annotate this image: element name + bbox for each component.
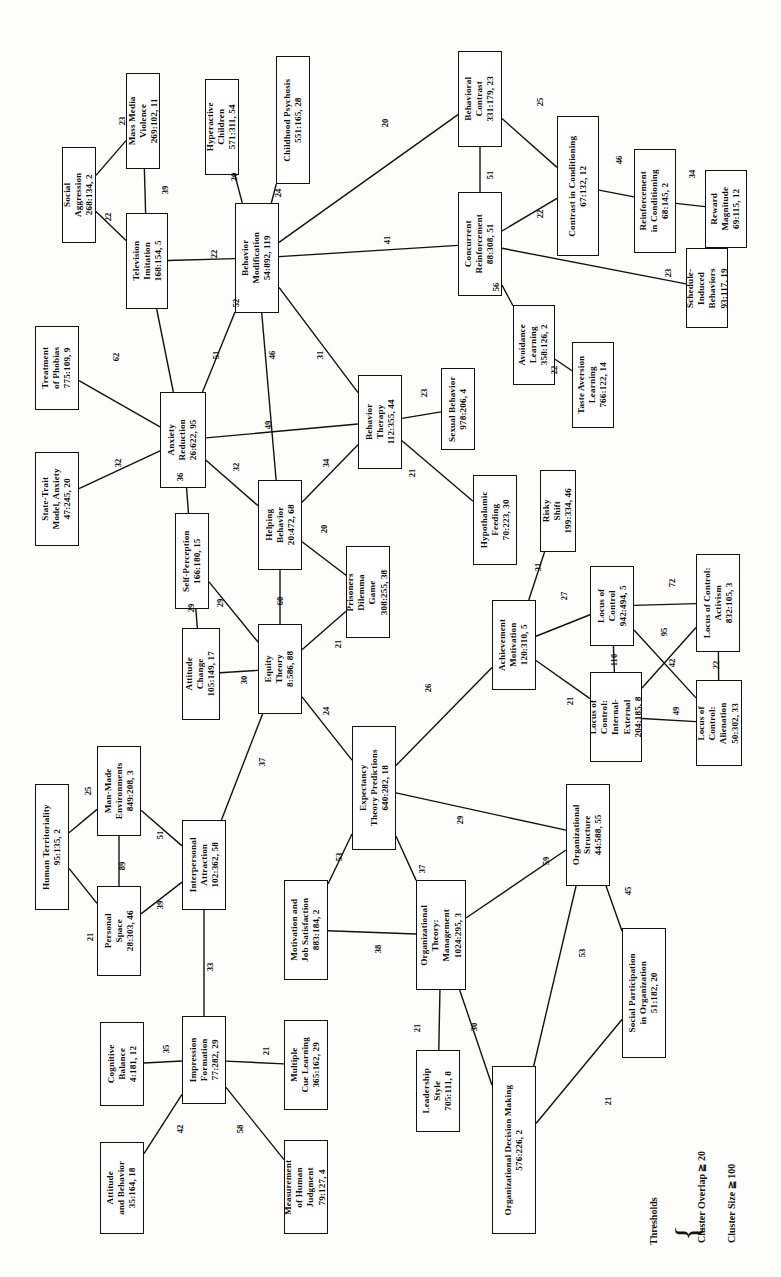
node-stat: 166:180, 15: [192, 530, 203, 592]
node-expectancy_theory: ExpectancyTheory Predictions640:282, 18: [352, 726, 396, 850]
node-stat: 47:245, 20: [63, 468, 74, 529]
node-label: InterpersonalAttraction102:362, 58: [187, 838, 221, 893]
node-stat: 775:109, 9: [63, 347, 74, 389]
node-label: Taste AversionLearning766:122, 14: [576, 356, 610, 414]
edge-impression_formation-attitude_behavior: [144, 1094, 182, 1153]
node-stat: 105:149, 17: [207, 651, 218, 697]
node-label: Schedule-InducedBehaviors93:117, 19: [686, 268, 728, 308]
node-multiple_cue_learning: MultipleCue Learning365:162, 29: [284, 1020, 328, 1110]
node-stat: 8:586, 88: [286, 651, 297, 687]
node-label: Locus ofControl:Internal-External204:185…: [590, 697, 642, 738]
node-label: ConcurrentReinforcement88:308, 51: [463, 214, 497, 273]
edge-concurrent_reinforcement-avoidance_learning: [502, 285, 513, 306]
node-stat: 640:282, 18: [380, 750, 391, 827]
node-stat: 20:472, 68: [286, 505, 297, 546]
edge-expectancy_theory-org_structure: [396, 793, 566, 830]
node-label: OrganizationalTheory:Management1024:295,…: [419, 905, 464, 966]
node-label: Man-MadeEnvironments849:208, 3: [102, 763, 136, 820]
node-attitude_change: AttitudeChange105:149, 17: [182, 628, 220, 720]
node-label: Treatmentof Phobias775:109, 9: [40, 347, 74, 389]
node-label: TelevisionImitation168:154, 5: [130, 241, 164, 282]
node-label: State-TraitModel, Anxiety47:245, 20: [40, 468, 74, 529]
node-stat: 978:206, 4: [458, 376, 469, 442]
node-label: Motivation andJob Satisfaction883:184, 2: [289, 898, 323, 962]
node-label: SocialAggression268:134, 2: [62, 173, 96, 217]
edge-locus_int_ext-locus_activism: [642, 628, 696, 688]
node-label: Measurementof HumanJudgment79:127, 4: [284, 1159, 328, 1214]
node-label: ExpectancyTheory Predictions640:282, 18: [357, 750, 391, 827]
node-org_structure: OrganizationalStructure44:588, 55: [566, 784, 610, 886]
node-label: LeadershipStyle705:111, 8: [421, 1068, 455, 1113]
node-hypothalamic_feeding: HypothalamicFeeding70:223, 30: [473, 475, 517, 565]
node-state_trait_anxiety: State-TraitModel, Anxiety47:245, 20: [35, 452, 79, 546]
diagram-page: SocialAggression268:134, 2Mass MediaViol…: [0, 0, 781, 1277]
node-avoidance_learning: AvoidanceLearning358:126, 2: [513, 305, 555, 385]
node-label: PrisonersDilemmaGame308:255, 38: [346, 569, 390, 615]
node-stat: 51:182, 20: [650, 953, 661, 1032]
edge-social_aggression-television_imitation: [96, 212, 126, 241]
node-stat: 95:135, 2: [52, 804, 63, 889]
edge-reinforcement_cond-reward_magnitude: [676, 203, 705, 206]
node-stat: 68:145, 2: [661, 169, 672, 232]
node-label: BehavioralContrast331:179, 23: [463, 76, 497, 122]
edge-equity_theory-expectancy_theory: [302, 697, 352, 760]
node-label: EquityTheory8:586, 88: [263, 651, 297, 687]
node-label: HyperactiveChildren571:311, 54: [205, 102, 239, 151]
node-label: Self-Perception166:180, 15: [181, 530, 203, 592]
node-stat: 832:105, 3: [724, 568, 735, 639]
node-concurrent_reinforcement: ConcurrentReinforcement88:308, 51: [458, 192, 502, 296]
edge-man_made_env-interpersonal_attraction: [141, 810, 182, 846]
edge-anxiety_reduction-self_perception: [187, 488, 189, 513]
edge-org_theory_mgmt-leadership_style: [439, 990, 440, 1050]
node-label: AvoidanceLearning358:126, 2: [517, 324, 551, 366]
node-treatment_phobias: Treatmentof Phobias775:109, 9: [35, 326, 79, 410]
node-attitude_behavior: Attitudeand Behavior35:164, 18: [100, 1142, 144, 1234]
node-measurement_judgment: Measurementof HumanJudgment79:127, 4: [284, 1140, 328, 1234]
node-personal_space: PersonalSpace28:303, 46: [97, 886, 141, 976]
node-stat: 331:179, 23: [486, 76, 497, 122]
node-locus_alienation: Locus ofControl:Alienation50:302, 33: [696, 680, 742, 766]
node-man_made_env: Man-MadeEnvironments849:208, 3: [97, 746, 141, 836]
edge-personal_space-interpersonal_attraction: [141, 882, 182, 914]
node-impression_formation: ImpressionFormation77:282, 29: [182, 1016, 226, 1104]
node-label: HypothalamicFeeding70:223, 30: [478, 492, 512, 549]
node-schedule_induced: Schedule-InducedBehaviors93:117, 19: [686, 248, 728, 328]
node-hyperactive_children: HyperactiveChildren571:311, 54: [205, 79, 239, 175]
node-contrast_conditioning: Contrast in Conditioning67:132, 12: [557, 116, 599, 256]
edge-achievement_motivation-locus_control: [536, 615, 590, 636]
node-stat: 35:164, 18: [128, 1161, 139, 1215]
node-stat: 705:111, 8: [444, 1068, 455, 1113]
edge-television_imitation-behavior_modification: [168, 259, 235, 261]
node-stat: 120:310, 5: [520, 619, 531, 671]
edge-expectancy_theory-org_theory_mgmt: [396, 836, 416, 880]
node-stat: 44:588, 55: [594, 805, 605, 866]
node-stat: 849:208, 3: [125, 763, 136, 820]
node-org_theory_mgmt: OrganizationalTheory:Management1024:295,…: [416, 880, 466, 990]
node-locus_activism: Locus of Control:Activism832:105, 3: [696, 554, 740, 652]
edge-helping_behavior-prisoners_dilemma: [302, 542, 346, 576]
node-label: Human Territoriality95:135, 2: [41, 804, 63, 889]
node-label: BehaviorModification54:892, 119: [240, 232, 274, 284]
node-taste_aversion: Taste AversionLearning766:122, 14: [572, 342, 614, 428]
node-stat: 77:282, 29: [210, 1038, 221, 1083]
node-leadership_style: LeadershipStyle705:111, 8: [416, 1050, 460, 1132]
edge-achievement_motivation-locus_int_ext: [536, 661, 590, 699]
node-stat: 70:223, 30: [501, 492, 512, 549]
node-stat: 358:126, 2: [540, 324, 551, 366]
node-motivation_job_sat: Motivation andJob Satisfaction883:184, 2: [284, 880, 328, 980]
node-label: Childhood Psychosis551:165, 28: [282, 79, 304, 162]
edge-equity_theory-attitude_change: [220, 670, 258, 672]
node-self_perception: Self-Perception166:180, 15: [175, 513, 209, 609]
node-locus_int_ext: Locus ofControl:Internal-External204:185…: [590, 672, 642, 762]
node-label: Locus ofControl:Alienation50:302, 33: [697, 702, 742, 744]
edge-behavior_therapy-anxiety_reduction: [206, 424, 358, 438]
node-reward_magnitude: RewardMagnitude69:115, 12: [705, 170, 747, 248]
edge-cognitive_balance-impression_formation: [144, 1061, 182, 1063]
node-helping_behavior: HelpingBehavior20:472, 68: [258, 480, 302, 570]
edge-behavior_modification-behavior_therapy: [279, 287, 358, 392]
node-stat: 54:892, 119: [263, 232, 274, 284]
node-cognitive_balance: CognitiveBalance4:181, 12: [100, 1022, 144, 1106]
node-stat: 79:127, 4: [317, 1159, 328, 1214]
edge-television_imitation-anxiety_reduction: [157, 309, 174, 392]
edge-human_territoriality-man_made_env: [69, 809, 97, 832]
